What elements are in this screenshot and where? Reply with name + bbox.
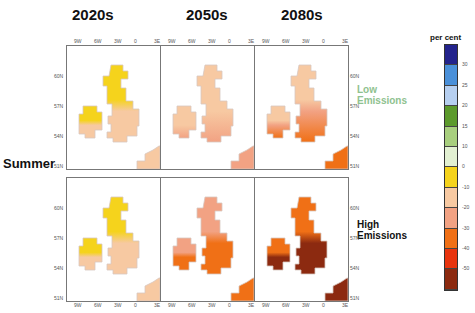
lat-tick-label: 54N — [54, 265, 63, 271]
lon-tick-label: 9W — [74, 38, 82, 44]
legend-swatch — [445, 208, 457, 228]
legend-tick-label: -30 — [462, 225, 469, 231]
lon-tick-label: 3E — [154, 302, 160, 308]
lat-tick-label: 51N — [54, 163, 63, 169]
lon-tick-label: 3W — [302, 38, 310, 44]
legend-swatch — [445, 229, 457, 249]
lat-tick-label: 60N — [350, 73, 359, 79]
map-panel-low-2080s — [254, 45, 349, 170]
lon-tick-label: 6W — [282, 302, 290, 308]
lat-tick-label: 54N — [54, 133, 63, 139]
lat-tick-label: 57N — [54, 235, 63, 241]
lon-tick-label: 3W — [208, 38, 216, 44]
scenario-label-low: Low Emissions — [357, 84, 407, 106]
lat-tick-label: 57N — [350, 103, 359, 109]
lon-tick-label: 3E — [248, 38, 254, 44]
lon-tick-label: 0 — [322, 302, 325, 308]
legend-tick-label: -40 — [462, 245, 469, 251]
lat-tick-label: 54N — [350, 265, 359, 271]
legend-swatch — [445, 147, 457, 167]
lon-tick-label: 0 — [228, 302, 231, 308]
lon-tick-label: 6W — [188, 302, 196, 308]
lon-tick-label: 3W — [114, 38, 122, 44]
lon-tick-label: 3W — [114, 302, 122, 308]
lat-tick-label: 60N — [350, 205, 359, 211]
legend-tick-label: 20 — [462, 102, 468, 108]
legend-tick-label: 25 — [462, 82, 468, 88]
lon-tick-label: 9W — [168, 302, 176, 308]
lon-tick-label: 6W — [282, 38, 290, 44]
lon-tick-label: 6W — [94, 302, 102, 308]
legend-swatch — [445, 45, 457, 65]
legend-swatch — [445, 127, 457, 147]
scenario-label-high: High Emissions — [357, 219, 407, 241]
map-panel-high-2080s — [254, 177, 349, 302]
legend-tick-label: 10 — [462, 143, 468, 149]
decade-title-2080s: 2080s — [281, 6, 323, 23]
season-label: Summer — [3, 156, 55, 171]
lon-tick-label: 3W — [302, 302, 310, 308]
map-panel-high-2020s — [66, 177, 161, 302]
legend-swatch — [445, 249, 457, 269]
legend-tick-label: 0 — [462, 163, 465, 169]
legend-colorbar — [444, 44, 458, 291]
lat-tick-label: 57N — [54, 103, 63, 109]
map-panel-low-2020s — [66, 45, 161, 170]
decade-title-2020s: 2020s — [72, 6, 114, 23]
lon-tick-label: 0 — [228, 38, 231, 44]
legend-swatch — [445, 188, 457, 208]
lat-tick-label: 54N — [350, 133, 359, 139]
legend-tick-label: -20 — [462, 204, 469, 210]
lon-tick-label: 3E — [342, 38, 348, 44]
lon-tick-label: 6W — [94, 38, 102, 44]
lon-tick-label: 6W — [188, 38, 196, 44]
legend-tick-label: 30 — [462, 61, 468, 67]
lon-tick-label: 0 — [134, 302, 137, 308]
lon-tick-label: 3E — [154, 38, 160, 44]
legend-swatch — [445, 65, 457, 85]
legend-swatch — [445, 167, 457, 187]
lat-tick-label: 51N — [350, 163, 359, 169]
lat-tick-label: 51N — [54, 295, 63, 301]
lat-tick-label: 51N — [350, 295, 359, 301]
legend-swatch — [445, 86, 457, 106]
lon-tick-label: 9W — [262, 38, 270, 44]
lon-tick-label: 9W — [262, 302, 270, 308]
legend-swatch — [445, 106, 457, 126]
lon-tick-label: 3E — [342, 302, 348, 308]
lat-tick-label: 57N — [350, 235, 359, 241]
map-panel-low-2050s — [160, 45, 255, 170]
lon-tick-label: 0 — [134, 38, 137, 44]
lon-tick-label: 9W — [168, 38, 176, 44]
legend-swatch — [445, 269, 457, 289]
lon-tick-label: 0 — [322, 38, 325, 44]
legend-title: per cent — [430, 33, 461, 42]
decade-title-2050s: 2050s — [186, 6, 228, 23]
lon-tick-label: 3W — [208, 302, 216, 308]
lon-tick-label: 3E — [248, 302, 254, 308]
legend-tick-label: 15 — [462, 123, 468, 129]
legend-tick-label: -50 — [462, 265, 469, 271]
lat-tick-label: 60N — [54, 205, 63, 211]
map-panel-high-2050s — [160, 177, 255, 302]
legend-tick-label: -10 — [462, 184, 469, 190]
lat-tick-label: 60N — [54, 73, 63, 79]
lon-tick-label: 9W — [74, 302, 82, 308]
